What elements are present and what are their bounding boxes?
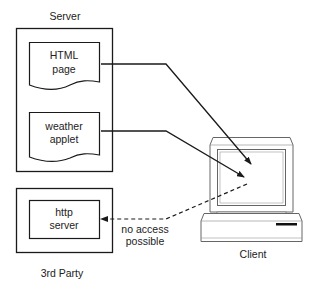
html-page-line2: page <box>52 63 76 75</box>
computer-base-icon <box>201 214 302 242</box>
http-server-line1: http <box>55 206 73 218</box>
client-label: Client <box>240 248 267 260</box>
weather-applet-document: weather applet <box>30 113 100 162</box>
html-page-line1: HTML <box>50 49 79 61</box>
no-access-line1: no access <box>121 223 168 235</box>
no-access-line2: possible <box>126 235 165 247</box>
drive-slot-icon <box>276 223 297 226</box>
http-server-line2: server <box>49 219 79 231</box>
client-computer: Client <box>201 138 302 261</box>
third-party-label: 3rd Party <box>41 267 84 279</box>
third-party-group: http server 3rd Party <box>17 189 113 280</box>
monitor-icon <box>210 138 293 217</box>
weather-applet-line2: applet <box>50 133 79 145</box>
server-group: Server HTML page weather applet <box>17 10 113 172</box>
html-page-document: HTML page <box>30 43 100 90</box>
diagram-canvas: Server HTML page weather applet http ser… <box>0 0 319 293</box>
weather-applet-line1: weather <box>44 120 83 132</box>
server-label: Server <box>50 10 81 22</box>
